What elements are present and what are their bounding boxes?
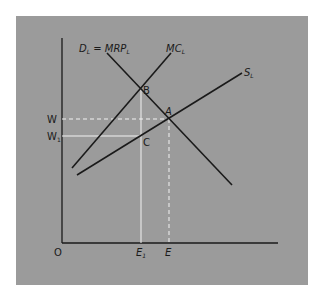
labor-market-diagram: DL = MRPL MCL SL B A C W W1 O E1 E [0, 0, 322, 301]
demand-label: DL = MRPL [79, 43, 130, 55]
employment-e-label: E [165, 247, 172, 258]
origin-label: O [54, 247, 62, 258]
supply-label: SL [244, 67, 254, 79]
wage-w1-label: W1 [47, 131, 61, 143]
point-a-label: A [164, 106, 172, 117]
marginal-cost-label: MCL [166, 43, 185, 55]
wage-w-label: W [47, 114, 57, 125]
point-c-label: C [143, 137, 150, 148]
supply-curve [77, 73, 242, 175]
marginal-cost-curve [72, 53, 171, 168]
employment-e1-label: E1 [136, 247, 146, 259]
point-b-label: B [143, 85, 150, 96]
